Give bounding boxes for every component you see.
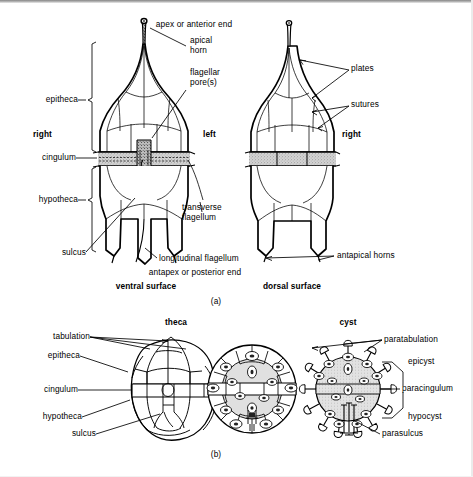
label-cingulum-a: cingulum (10, 153, 76, 163)
heading-theca: theca (136, 318, 216, 328)
label-antapical-horns: antapical horns (337, 251, 395, 261)
label-apical-horn-line2: horn (190, 46, 207, 56)
label-antapex-posterior-end: antapex or posterior end (125, 268, 265, 278)
label-epitheca-a: epitheca (18, 95, 78, 105)
label-plates: plates (351, 64, 374, 74)
label-sulcus-a: sulcus (38, 248, 86, 258)
label-flagellar-pores-line2: pore(s) (190, 78, 217, 88)
label-tabulation-b: tabulation (28, 332, 90, 342)
theca-apical-cingulum (208, 383, 296, 395)
title-ventral-surface: ventral surface (86, 282, 206, 292)
label-longitudinal-flagellum: longitudinal flagellum (159, 254, 239, 264)
label-paracingulum: paracingulum (402, 384, 453, 394)
heading-cyst: cyst (308, 318, 388, 328)
label-apex-anterior-end: apex or anterior end (124, 20, 264, 30)
theca-3d-drawing (131, 337, 218, 440)
dorsal-surface-drawing (245, 21, 340, 262)
label-hypotheca-b: hypotheca (14, 412, 82, 422)
label-left-ventral: left (203, 130, 216, 140)
caption-panel-b: (b) (196, 450, 236, 460)
figure-page: apex or anterior end apical horn flagell… (0, 0, 473, 477)
label-parasulcus: parasulcus (382, 429, 423, 439)
label-right-dorsal: right (342, 130, 361, 140)
caption-panel-a: (a) (196, 297, 236, 307)
label-transverse-flagellum-line2: flagellum (182, 213, 216, 223)
theca-apical-view-drawing (207, 345, 297, 433)
label-paratabulation: paratabulation (384, 335, 438, 345)
label-hypocyst: hypocyst (408, 412, 442, 422)
label-sulcus-b: sulcus (48, 429, 96, 439)
theca-cingulum (132, 384, 218, 397)
label-right-ventral: right (33, 130, 52, 140)
label-epicyst: epicyst (408, 357, 435, 367)
ventral-surface-drawing (93, 19, 203, 265)
label-hypotheca-a: hypotheca (18, 195, 78, 205)
label-cingulum-b: cingulum (12, 385, 78, 395)
dorsal-cingulum (245, 152, 340, 167)
label-epitheca-b: epitheca (18, 351, 80, 361)
figure-artwork (0, 0, 473, 477)
label-sutures: sutures (351, 100, 379, 110)
title-dorsal-surface: dorsal surface (232, 282, 352, 292)
